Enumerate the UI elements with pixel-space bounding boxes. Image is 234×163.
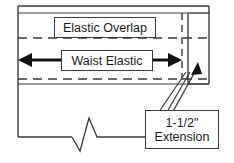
label-waist-elastic-text: Waist Elastic (71, 54, 142, 68)
arrow-left-icon (18, 53, 32, 67)
leader-arrow-up-icon (191, 62, 202, 75)
label-elastic-overlap: Elastic Overlap (54, 17, 156, 38)
break-line-zigzag (72, 118, 104, 151)
label-extension-callout: 1-1/2" Extension (145, 110, 219, 149)
label-waist-elastic: Waist Elastic (61, 50, 153, 71)
arrow-right-icon (168, 53, 182, 67)
label-elastic-overlap-text: Elastic Overlap (63, 21, 147, 35)
label-extension-measure-text: 1-1/2" (166, 116, 199, 130)
break-symbol-path (72, 118, 104, 151)
waist-elastic-diagram: Elastic Overlap Waist Elastic 1-1/2" Ext… (0, 0, 234, 163)
label-extension-word-text: Extension (155, 130, 210, 144)
